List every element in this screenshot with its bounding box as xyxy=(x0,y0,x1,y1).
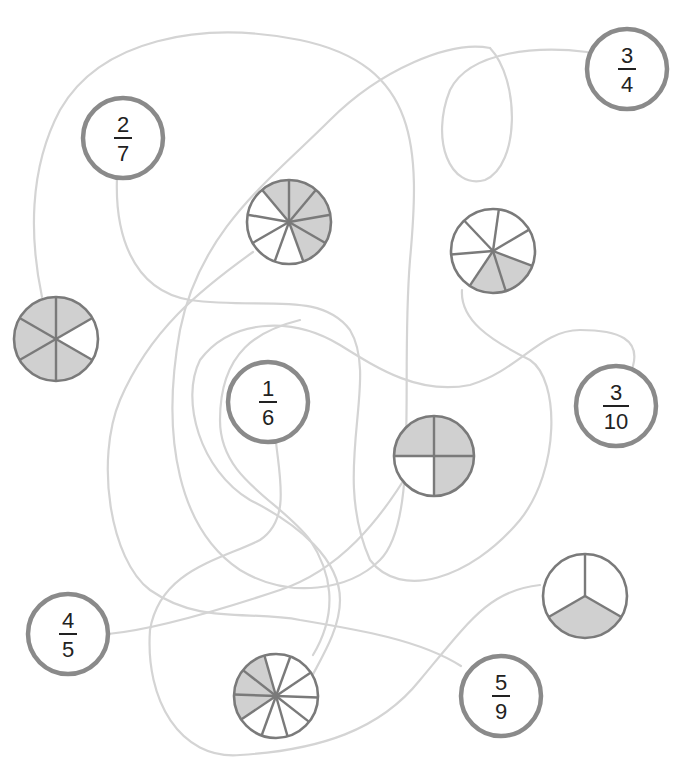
slice-divider xyxy=(234,695,276,696)
pie-7-slices[interactable] xyxy=(451,209,535,293)
denominator: 5 xyxy=(62,637,74,662)
fraction-badge-4-5[interactable]: 45 xyxy=(28,594,108,674)
numerator: 4 xyxy=(62,608,74,633)
denominator: 7 xyxy=(117,141,129,166)
fraction-badge-2-7[interactable]: 27 xyxy=(83,98,163,178)
pie-6-slices[interactable] xyxy=(14,297,98,381)
slice-divider xyxy=(276,696,318,697)
numerator: 3 xyxy=(610,380,622,405)
denominator: 4 xyxy=(621,72,633,97)
denominator: 9 xyxy=(495,699,507,724)
fraction-badge-3-4[interactable]: 34 xyxy=(587,29,667,109)
numerator: 5 xyxy=(495,670,507,695)
fraction-pies xyxy=(14,180,627,738)
pie-3-slices[interactable] xyxy=(543,554,627,638)
numerator: 1 xyxy=(262,376,274,401)
pie-10-slices[interactable] xyxy=(234,654,318,738)
numerator: 3 xyxy=(621,43,633,68)
pie-4-slices[interactable] xyxy=(394,416,474,496)
denominator: 6 xyxy=(262,405,274,430)
fraction-badge-3-10[interactable]: 310 xyxy=(576,366,656,446)
maze-path xyxy=(108,470,410,634)
pie-9-slices[interactable] xyxy=(247,180,331,264)
numerator: 2 xyxy=(117,112,129,137)
maze-path xyxy=(442,48,587,181)
fraction-matching-puzzle: 2734163104559 xyxy=(0,0,678,767)
denominator: 10 xyxy=(604,409,628,434)
fraction-badge-5-9[interactable]: 59 xyxy=(461,656,541,736)
fraction-badge-1-6[interactable]: 16 xyxy=(228,362,308,442)
